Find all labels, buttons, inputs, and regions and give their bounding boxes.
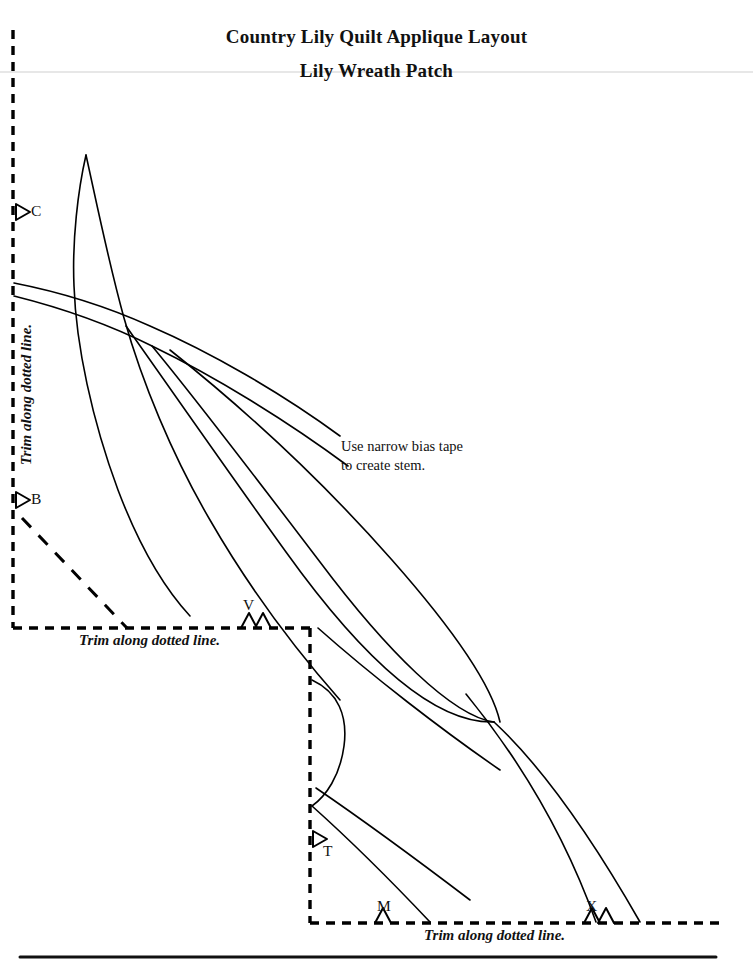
- notch-chevron-b-icon: [16, 492, 30, 508]
- marker-label-m: M: [377, 898, 391, 914]
- main-trim-frame: [13, 30, 725, 923]
- upper-leaf-outer-edge: [74, 155, 190, 616]
- stem-band-upper: [14, 283, 340, 436]
- trim-label-left: Trim along dotted line.: [18, 300, 35, 490]
- notch-peak-x-right-icon: [598, 908, 614, 923]
- trim-label-middle: Trim along dotted line.: [79, 632, 220, 649]
- long-leaf-mid-edge: [152, 346, 494, 722]
- page-subtitle: Lily Wreath Patch: [0, 60, 753, 82]
- marker-label-t: T: [323, 843, 332, 859]
- marker-label-v: V: [243, 597, 254, 613]
- pattern-drawing: [0, 0, 753, 973]
- marker-label-c: C: [31, 203, 41, 219]
- marker-label-b: B: [31, 491, 41, 507]
- page-title: Country Lily Quilt Applique Layout: [0, 26, 753, 48]
- marker-label-x: X: [586, 898, 597, 914]
- inset-diagonal: [318, 628, 500, 770]
- diagonal-trim-guide: [22, 518, 127, 628]
- upper-leaf-inner-edge: [86, 155, 340, 700]
- stem-note: Use narrow bias tape to create stem.: [341, 437, 463, 474]
- notch-peak-v-left-icon: [241, 613, 257, 628]
- notch-peak-v-right-icon: [255, 613, 271, 628]
- trim-label-bottom: Trim along dotted line.: [424, 927, 565, 944]
- notch-chevron-c-icon: [16, 204, 30, 220]
- second-sweep-curve: [494, 722, 640, 922]
- inset-fan-lower: [312, 806, 430, 922]
- lower-sweep-curve: [466, 694, 596, 922]
- pattern-page: Country Lily Quilt Applique Layout Lily …: [0, 0, 753, 973]
